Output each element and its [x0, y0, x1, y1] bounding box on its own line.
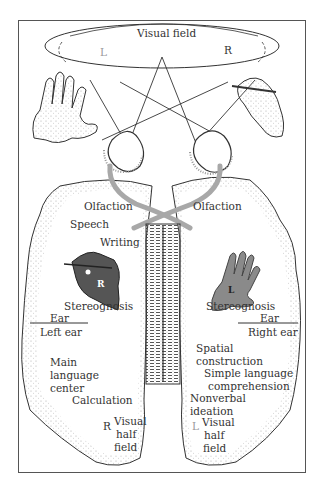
right-ear-upper-label: Ear — [260, 312, 279, 324]
right-visual-label: Visual — [202, 416, 235, 428]
construction-label: construction — [196, 355, 263, 367]
split-brain-diagram: Visual field L R Olfaction Speech Writin… — [0, 0, 323, 492]
right-field-marker: L — [192, 420, 199, 432]
language-label: language — [50, 369, 99, 381]
right-field-label: field — [203, 442, 226, 454]
simple-language-label: Simple language — [204, 367, 293, 379]
comprehension-label: comprehension — [208, 380, 290, 392]
left-field-marker: R — [103, 420, 111, 432]
writing-label: Writing — [100, 236, 140, 248]
nonverbal-label: Nonverbal — [190, 392, 246, 404]
left-open-hand-icon — [33, 72, 97, 143]
left-ear-upper-label: Ear — [50, 312, 69, 324]
left-ear-label: Left ear — [40, 326, 82, 338]
left-field-label: field — [114, 441, 137, 453]
left-stereognosis-label: Stereognosis — [64, 300, 133, 312]
spatial-label: Spatial — [196, 342, 233, 354]
visual-field-title: Visual field — [137, 27, 196, 39]
main-label: Main — [50, 356, 77, 368]
left-half-label: half — [116, 428, 136, 440]
visual-field-right-marker: R — [224, 44, 232, 56]
calculation-label: Calculation — [72, 394, 133, 406]
right-olfaction-label: Olfaction — [193, 200, 242, 212]
left-visual-label: Visual — [114, 415, 147, 427]
speech-label: Speech — [70, 218, 109, 230]
visual-field-left-marker: L — [100, 46, 107, 58]
corpus-callosum — [146, 224, 180, 384]
center-label: center — [50, 382, 84, 394]
left-olfaction-label: Olfaction — [84, 200, 133, 212]
diagram-artwork — [0, 0, 323, 492]
right-stereognosis-label: Stereognosis — [206, 300, 275, 312]
left-hand-marker: R — [97, 278, 104, 290]
right-writing-hand-icon — [232, 78, 284, 137]
right-half-label: half — [204, 429, 224, 441]
right-eye — [190, 131, 232, 174]
right-hand-marker: L — [228, 284, 234, 296]
right-ear-label: Right ear — [248, 326, 298, 338]
